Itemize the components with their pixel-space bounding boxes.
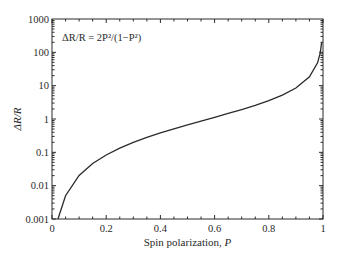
x-tick-label: 0.4 xyxy=(154,223,168,234)
y-tick-label: 0.001 xyxy=(25,214,49,225)
data-curve xyxy=(58,42,322,219)
chart: 00.20.40.60.81 0.0010.010.11101001000 ΔR… xyxy=(0,0,340,254)
x-axis-title: Spin polarization, P xyxy=(144,236,232,248)
y-tick-label: 0.1 xyxy=(36,147,49,158)
y-axis-title: ΔR/R xyxy=(11,107,23,131)
y-tick-label: 10 xyxy=(39,80,50,91)
x-tick-label: 0 xyxy=(49,223,54,234)
annotation-formula: ΔR/R = 2P²/(1−P²) xyxy=(62,32,142,44)
y-tick-label: 0.01 xyxy=(31,180,49,191)
y-tick-label: 1 xyxy=(44,114,49,125)
x-tick-label: 1 xyxy=(320,223,325,234)
x-tick-label: 0.8 xyxy=(262,223,275,234)
x-tick-label: 0.2 xyxy=(100,223,113,234)
y-tick-label: 100 xyxy=(33,47,49,58)
y-tick-label: 1000 xyxy=(28,14,49,25)
plot-frame xyxy=(52,19,323,219)
x-tick-labels: 00.20.40.60.81 xyxy=(49,223,325,234)
axis-ticks xyxy=(52,19,323,219)
y-tick-labels: 0.0010.010.11101001000 xyxy=(25,14,49,225)
x-tick-label: 0.6 xyxy=(208,223,221,234)
